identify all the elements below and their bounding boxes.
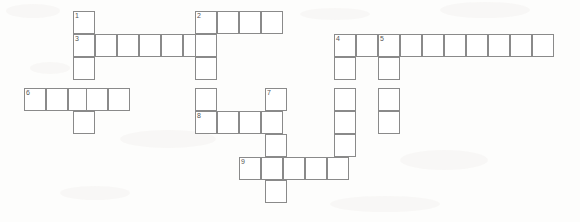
cell-r1-c4[interactable] [95, 34, 117, 57]
cell-r4-c11[interactable] [261, 111, 283, 134]
clue-number-6: 6 [26, 89, 30, 97]
cell-r4-c3[interactable] [73, 111, 95, 134]
cell-r1-c28[interactable] [510, 34, 532, 57]
cell-r6-c10[interactable]: 9 [239, 157, 261, 180]
clue-number-5: 5 [380, 35, 384, 43]
cell-r6-c11[interactable] [261, 157, 283, 180]
cell-r3-c12[interactable]: 7 [265, 88, 287, 111]
cell-r2-c22[interactable] [378, 57, 400, 80]
cell-r3-c20[interactable] [334, 88, 356, 111]
cell-r0-c8[interactable]: 2 [195, 11, 217, 34]
cell-r3-c4[interactable] [108, 88, 130, 111]
cell-r1-c22[interactable]: 5 [378, 34, 400, 57]
cell-r0-c10[interactable] [239, 11, 261, 34]
cell-r1-c5[interactable] [117, 34, 139, 57]
clue-number-4: 4 [336, 35, 340, 43]
clue-number-8: 8 [197, 112, 201, 120]
cell-r6-c13[interactable] [305, 157, 327, 180]
clue-number-1: 1 [75, 12, 79, 20]
cell-r1-c20[interactable]: 4 [334, 34, 356, 57]
cell-r1-c29[interactable] [532, 34, 554, 57]
cell-r1-c23[interactable] [400, 34, 422, 57]
cell-r3-c22[interactable] [378, 88, 400, 111]
cell-r5-c20[interactable] [334, 134, 356, 157]
crossword-grid: 123456789 [0, 0, 580, 222]
cell-r0-c11[interactable] [261, 11, 283, 34]
cell-r4-c10[interactable] [239, 111, 261, 134]
cell-r1-c26[interactable] [466, 34, 488, 57]
cell-r4-c9[interactable] [217, 111, 239, 134]
cell-r0-c3[interactable]: 1 [73, 11, 95, 34]
cell-r4-c20[interactable] [334, 111, 356, 134]
cell-r1-c7[interactable] [161, 34, 183, 57]
cell-r7-c12[interactable] [265, 180, 287, 203]
clue-number-7: 7 [267, 89, 271, 97]
cell-r5-c12[interactable] [265, 134, 287, 157]
cell-r2-c3[interactable] [73, 57, 95, 80]
cell-r2-c8[interactable] [195, 57, 217, 80]
cell-r3-c8[interactable] [195, 88, 217, 111]
cell-r3-c0[interactable]: 6 [24, 88, 46, 111]
cell-r6-c14[interactable] [327, 157, 349, 180]
cell-r6-c12[interactable] [283, 157, 305, 180]
clue-number-3: 3 [75, 35, 79, 43]
clue-number-2: 2 [197, 12, 201, 20]
clue-number-9: 9 [241, 158, 245, 166]
cell-r4-c22[interactable] [378, 111, 400, 134]
cell-r1-c27[interactable] [488, 34, 510, 57]
crossword-canvas: 123456789 [0, 0, 580, 222]
cell-r1-c3[interactable]: 3 [73, 34, 95, 57]
cell-r1-c24[interactable] [422, 34, 444, 57]
cell-r1-c25[interactable] [444, 34, 466, 57]
cell-r2-c20[interactable] [334, 57, 356, 80]
cell-r3-c3[interactable] [86, 88, 108, 111]
cell-r1-c9[interactable] [195, 34, 217, 57]
cell-r4-c8[interactable]: 8 [195, 111, 217, 134]
cell-r1-c21[interactable] [356, 34, 378, 57]
cell-r0-c9[interactable] [217, 11, 239, 34]
cell-r3-c1[interactable] [46, 88, 68, 111]
cell-r1-c6[interactable] [139, 34, 161, 57]
